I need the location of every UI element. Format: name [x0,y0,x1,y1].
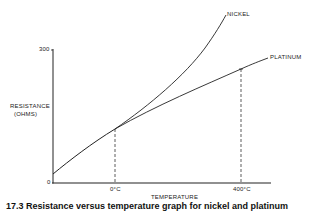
y-tick-300: 300 [39,46,50,52]
figure-caption: 17.3 Resistance versus temperature graph… [6,201,288,211]
y-axis-label-line2: (OHMS) [14,111,37,117]
x-tick-400c: 400°C [233,186,251,192]
series-label-platinum: PLATINUM [270,54,302,60]
x-axis-label: TEMPERATURE [151,194,198,200]
y-axis-label-line1: RESISTANCE [10,103,50,109]
curve-nickel [115,15,226,129]
curve-platinum [115,58,268,129]
series-label-nickel: NICKEL [227,11,250,17]
curve-common-segment [53,129,115,174]
y-tick-0: 0 [47,179,51,185]
x-tick-0c: 0°C [110,186,121,192]
